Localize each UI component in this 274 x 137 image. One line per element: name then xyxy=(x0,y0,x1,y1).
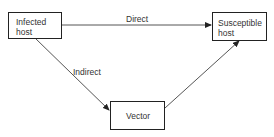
node-susceptible-host-line2: host xyxy=(218,28,266,38)
edge-label-direct: Direct xyxy=(126,14,148,24)
node-vector: Vector xyxy=(110,101,165,130)
edge-label-indirect: Indirect xyxy=(73,67,101,77)
edge-vector-to-susceptible xyxy=(165,41,239,108)
node-infected-host-line2: host xyxy=(16,27,61,37)
node-infected-host: Infected host xyxy=(8,12,62,39)
node-susceptible-host: Susceptible host xyxy=(212,12,267,41)
node-infected-host-line1: Infected xyxy=(16,17,61,27)
node-susceptible-host-line1: Susceptible xyxy=(218,18,266,28)
node-vector-label: Vector xyxy=(126,111,164,121)
